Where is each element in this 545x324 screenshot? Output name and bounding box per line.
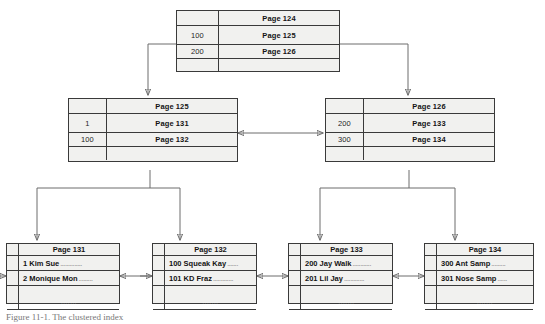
index-entry-row[interactable]: 200 Page 133 — [326, 114, 494, 133]
leaf-record-filler: ......... — [78, 275, 93, 282]
node-title: Page 126 — [364, 99, 494, 113]
leaf-gutter-cell — [289, 271, 301, 285]
leaf-record-row[interactable]: 100 Squeak Kay ....... — [153, 256, 256, 271]
node-empty-row — [69, 147, 237, 160]
leaf-record-row[interactable]: 2 Monique Mon ......... — [7, 271, 119, 286]
leaf-record-row[interactable]: 101 KD Fraz ............. — [153, 271, 256, 286]
leaf-record-filler: ............. — [343, 275, 364, 282]
index-pointer: Page 125 — [219, 26, 339, 44]
empty-value-cell — [364, 147, 494, 160]
leaf-record-filler: ............. — [212, 275, 233, 282]
leaf-record-text: 301 Nose Samp — [441, 274, 496, 283]
leaf-gutter-cell — [289, 256, 301, 270]
leaf-gutter-cell — [7, 271, 19, 285]
leaf-gutter-cell — [153, 244, 165, 255]
leaf-record-row[interactable]: 300 Ant Samp ......... — [425, 256, 533, 271]
index-key: 300 — [326, 133, 364, 146]
index-pointer: Page 132 — [107, 133, 237, 146]
index-entry-row[interactable]: 1 Page 131 — [69, 114, 237, 133]
edge-root-to-page125 — [148, 44, 176, 95]
empty-key-cell — [326, 147, 364, 160]
leaf-record-row[interactable]: 1 Kim Sue .............. — [7, 256, 119, 271]
index-pointer: Page 126 — [219, 45, 339, 58]
empty-value-cell — [219, 59, 339, 72]
leaf-record-cell: 201 Lil Jay ............. — [301, 271, 392, 285]
index-node-page125[interactable]: Page 125 1 Page 131 100 Page 132 — [68, 98, 238, 162]
index-pointer: Page 133 — [364, 114, 494, 132]
leaf-title: Page 133 — [301, 244, 392, 255]
leaf-ellipsis: ....... — [165, 286, 256, 309]
index-key: 1 — [69, 114, 107, 132]
empty-key-cell — [177, 59, 219, 72]
leaf-gutter-cell — [289, 244, 301, 255]
leaf-node-page133[interactable]: Page 133 200 Jay Walk ............ 201 L… — [288, 243, 393, 304]
index-node-page126[interactable]: Page 126 200 Page 133 300 Page 134 — [325, 98, 495, 162]
node-title: Page 124 — [219, 11, 339, 25]
leaf-record-filler: ......... — [490, 260, 505, 267]
leaf-gutter-cell — [153, 256, 165, 270]
leaf-record-text: 1 Kim Sue — [23, 259, 59, 268]
edge-page125-to-leaves — [37, 170, 180, 240]
leaf-record-cell: 1 Kim Sue .............. — [19, 256, 119, 270]
leaf-record-text: 200 Jay Walk — [305, 259, 351, 268]
leaf-record-text: 300 Ant Samp — [441, 259, 490, 268]
leaf-free-space-row: ....... — [7, 286, 119, 310]
index-pointer: Page 131 — [107, 114, 237, 132]
leaf-node-page132[interactable]: Page 132 100 Squeak Kay ....... 101 KD F… — [152, 243, 257, 304]
leaf-record-filler: ....... — [226, 260, 238, 267]
leaf-node-page131[interactable]: Page 131 1 Kim Sue .............. 2 Moni… — [6, 243, 120, 304]
leaf-ellipsis: ....... — [301, 286, 392, 309]
leaf-node-page134[interactable]: Page 134 300 Ant Samp ......... 301 Nose… — [424, 243, 534, 304]
index-entry-row[interactable]: 200 Page 126 — [177, 45, 339, 59]
index-key: 100 — [177, 26, 219, 44]
leaf-header-row: Page 133 — [289, 244, 392, 256]
empty-value-cell — [107, 147, 237, 160]
node-header-row: Page 125 — [69, 99, 237, 114]
node-empty-row — [326, 147, 494, 160]
leaf-record-row[interactable]: 200 Jay Walk ............ — [289, 256, 392, 271]
leaf-gutter-cell — [425, 256, 437, 270]
node-empty-row — [177, 59, 339, 72]
leaf-title: Page 131 — [19, 244, 119, 255]
leaf-record-row[interactable]: 201 Lil Jay ............. — [289, 271, 392, 286]
leaf-free-space-row: ....... — [425, 286, 533, 310]
leaf-record-cell: 301 Nose Samp ...... — [437, 271, 533, 285]
empty-key-cell — [69, 147, 107, 160]
leaf-record-filler: ...... — [496, 275, 506, 282]
leaf-free-space-row: ....... — [289, 286, 392, 310]
index-entry-row[interactable]: 100 Page 125 — [177, 26, 339, 45]
leaf-record-filler: ............ — [351, 260, 371, 267]
header-key-cell — [177, 11, 219, 25]
leaf-gutter-cell — [153, 271, 165, 285]
leaf-ellipsis: ....... — [437, 286, 533, 309]
leaf-record-cell: 300 Ant Samp ......... — [437, 256, 533, 270]
leaf-title: Page 132 — [165, 244, 256, 255]
header-key-cell — [326, 99, 364, 113]
leaf-record-cell: 101 KD Fraz ............. — [165, 271, 256, 285]
leaf-free-space-row: ....... — [153, 286, 256, 310]
edge-page126-to-leaves — [320, 170, 455, 240]
edge-root-to-page126 — [340, 44, 408, 95]
leaf-record-text: 201 Lil Jay — [305, 274, 343, 283]
leaf-record-filler: .............. — [59, 260, 82, 267]
index-entry-row[interactable]: 100 Page 132 — [69, 133, 237, 147]
leaf-record-cell: 100 Squeak Kay ....... — [165, 256, 256, 270]
leaf-header-row: Page 132 — [153, 244, 256, 256]
leaf-record-row[interactable]: 301 Nose Samp ...... — [425, 271, 533, 286]
leaf-record-cell: 2 Monique Mon ......... — [19, 271, 119, 285]
index-entry-row[interactable]: 300 Page 134 — [326, 133, 494, 147]
leaf-gutter-cell — [7, 256, 19, 270]
index-pointer: Page 134 — [364, 133, 494, 146]
leaf-gutter-cell — [7, 244, 19, 255]
index-key: 200 — [177, 45, 219, 58]
leaf-record-cell: 200 Jay Walk ............ — [301, 256, 392, 270]
index-node-page124[interactable]: Page 124 100 Page 125 200 Page 126 — [176, 10, 340, 72]
leaf-gutter-cell — [7, 286, 19, 309]
node-header-row: Page 126 — [326, 99, 494, 114]
leaf-gutter-cell — [153, 286, 165, 309]
leaf-record-text: 2 Monique Mon — [23, 274, 78, 283]
index-key: 200 — [326, 114, 364, 132]
index-key: 100 — [69, 133, 107, 146]
leaf-gutter-cell — [425, 271, 437, 285]
leaf-gutter-cell — [289, 286, 301, 309]
